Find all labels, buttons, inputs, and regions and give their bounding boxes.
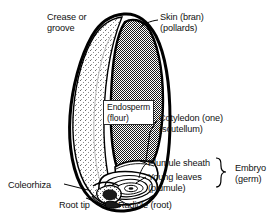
endosperm-shape [111, 20, 163, 168]
label-crease-or-groove: Crease or groove [47, 12, 86, 34]
label-plumule-sheath: Plumule sheath [148, 158, 210, 169]
endosperm-region [111, 20, 163, 168]
label-embryo-germ: Embryo (germ) [235, 163, 266, 185]
label-skin-bran-pollards: Skin (bran) (pollards) [160, 12, 204, 34]
wheat-grain-diagram: Crease or groove Skin (bran) (pollards) … [0, 0, 272, 222]
label-coleorhiza: Coleorhiza [8, 180, 51, 191]
label-root-tip: Root tip [59, 200, 90, 211]
label-endosperm-flour: Endosperm (flour) [103, 100, 154, 125]
plumule-tip-dot [129, 187, 134, 190]
label-young-leaves-plumule: Young leaves (plumule) [148, 172, 202, 194]
embryo-brace [216, 158, 226, 187]
label-cotyledon-scutellum: Cotyledon (one) (scutellum) [159, 113, 223, 135]
label-radicle-root: Radicle (root) [118, 200, 172, 211]
